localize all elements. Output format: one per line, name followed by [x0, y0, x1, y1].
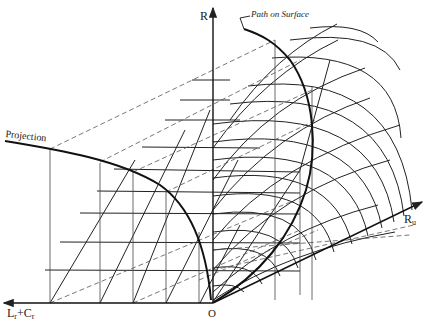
surface-longitudinal-lines: [213, 24, 400, 302]
path-on-surface-label: Path on Surface: [251, 10, 309, 19]
origin-label: O: [208, 308, 216, 319]
lc-axis-label: Lr+Cr: [7, 307, 34, 321]
ru-main: R: [404, 212, 412, 226]
lc-c: C: [24, 306, 32, 320]
surface-diagram: R Path on Surface Projection Ru Lr+Cr O: [0, 0, 424, 321]
ru-sub: u: [412, 218, 416, 227]
r-axis-label: R: [200, 10, 208, 22]
ru-axis: [213, 202, 422, 303]
lc-c-sub: r: [32, 312, 35, 321]
path-label-leader: [240, 16, 250, 29]
lc-plus: +: [17, 306, 24, 320]
ru-axis-label: Ru: [404, 213, 416, 227]
diagram-drawing: [0, 0, 424, 321]
projection-curve: [5, 141, 211, 300]
